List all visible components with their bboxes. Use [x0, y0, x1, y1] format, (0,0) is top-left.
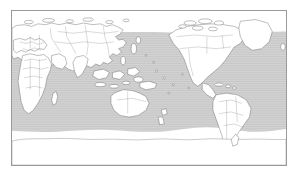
north-atlantic-islands [281, 44, 286, 51]
land-antarctica [12, 138, 286, 165]
figure-panel [0, 0, 298, 176]
arctic-islands [24, 18, 129, 24]
map-frame [11, 10, 287, 166]
world-map [12, 11, 286, 165]
